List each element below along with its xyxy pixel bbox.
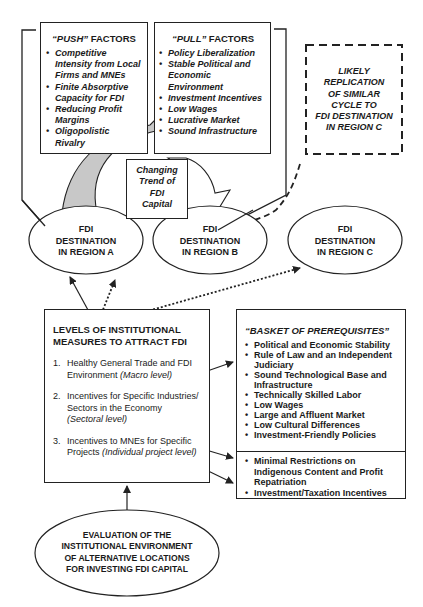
levels-title: LEVELS OF INSTITUTIONAL MEASURES TO ATTR… (53, 324, 203, 348)
pull-item: Policy Liberalization (159, 48, 267, 59)
basket-list: Political and Economic Stability Rule of… (245, 340, 401, 440)
pull-item: Low Wages (159, 104, 267, 115)
level-number: 1. (53, 358, 67, 381)
replication-line: REPLICATION (308, 77, 400, 88)
levels-title-line: LEVELS OF INSTITUTIONAL (53, 324, 203, 336)
basket-item: Political and Economic Stability (245, 340, 401, 350)
level-number: 2. (53, 391, 67, 426)
level-desc: Incentives for Specific Industries/ Sect… (67, 391, 199, 413)
level-item-sectoral: 2. Incentives for Specific Industries/ S… (53, 391, 203, 426)
basket-item: Technically Skilled Labor (245, 390, 401, 400)
level-item-project: 3. Incentives to MNEs for Specific Proje… (53, 436, 203, 459)
replication-text: LIKELY REPLICATION OF SIMILAR CYCLE TO F… (308, 66, 400, 134)
replication-line: IN REGION C (308, 122, 400, 133)
basket-item: Low Wages (245, 400, 401, 410)
push-factors-list: Competitive Intensity from Local Firms a… (46, 48, 142, 149)
evaluation-line: FOR INVESTING FDI CAPITAL (37, 564, 217, 575)
destination-line: IN REGION B (160, 247, 260, 259)
push-factors-box: “PUSH” FACTORS Competitive Intensity fro… (40, 22, 148, 154)
level-label: (Individual project level) (102, 447, 197, 457)
basket-extra-item: Minimal Restrictions on Indigenous Conte… (245, 456, 401, 488)
level-text: Healthy General Trade and FDI Environmen… (67, 358, 203, 381)
basket-item: Low Cultural Differences (245, 420, 401, 430)
level-label: (Sectoral level) (67, 414, 127, 424)
destination-line: IN REGION A (36, 247, 136, 259)
trend-line: FDI (127, 188, 187, 199)
destination-line: FDI (36, 224, 136, 236)
pull-factors-title: “PULL” FACTORS (159, 33, 267, 44)
basket-title: “BASKET OF PREREQUISITES” (245, 325, 401, 336)
replication-line: LIKELY (308, 66, 400, 77)
evaluation-line: INSTITUTIONAL ENVIRONMENT (37, 541, 217, 552)
pull-factors-list: Policy Liberalization Stable Political a… (159, 48, 267, 138)
destination-region-c: FDI DESTINATION IN REGION C (295, 224, 395, 259)
pull-item: Investment Incentives (159, 93, 267, 104)
level-label: (Macro level) (120, 370, 172, 380)
replication-line: FDI DESTINATION (308, 111, 400, 122)
pull-title-quoted: “PULL” (172, 33, 206, 44)
basket-box: “BASKET OF PREREQUISITES” Political and … (236, 309, 406, 499)
pull-factors-box: “PULL” FACTORS Policy Liberalization Sta… (154, 22, 271, 154)
push-title-rest: FACTORS (88, 33, 136, 44)
levels-title-line: MEASURES TO ATTRACT FDI (53, 336, 203, 348)
destination-line: IN REGION C (295, 247, 395, 259)
push-item: Finite Absorptive Capacity for FDI (46, 82, 142, 104)
basket-item: Investment-Friendly Policies (245, 430, 401, 440)
destination-region-a: FDI DESTINATION IN REGION A (36, 224, 136, 259)
basket-extra: Minimal Restrictions on Indigenous Conte… (237, 452, 405, 498)
level-text: Incentives for Specific Industries/ Sect… (67, 391, 203, 426)
basket-item: Rule of Law and an Independent Judiciary (245, 350, 401, 370)
changing-trend-box: Changing Trend of FDI Capital (126, 159, 188, 219)
push-factors-title: “PUSH” FACTORS (46, 33, 142, 44)
pull-title-rest: FACTORS (206, 33, 254, 44)
evaluation-line: EVALUATION OF THE (37, 530, 217, 541)
evaluation-line: OF ALTERNATIVE LOCATIONS (37, 553, 217, 564)
pull-item: Sound Infrastructure (159, 126, 267, 137)
basket-item: Sound Technological Base and Infrastruct… (245, 370, 401, 390)
pull-item: Stable Political and Economic Environmen… (159, 59, 267, 93)
destination-line: DESTINATION (295, 236, 395, 248)
level-text: Incentives to MNEs for Specific Projects… (67, 436, 203, 459)
trend-line: Capital (127, 199, 187, 210)
level-number: 3. (53, 436, 67, 459)
basket-extra-item: Investment/Taxation Incentives (245, 488, 401, 499)
push-item: Oligopolistic Rivalry (46, 126, 142, 148)
destination-line: DESTINATION (36, 236, 136, 248)
levels-box: LEVELS OF INSTITUTIONAL MEASURES TO ATTR… (44, 309, 210, 483)
push-item: Competitive Intensity from Local Firms a… (46, 48, 142, 82)
arrow-to-region-a (70, 277, 88, 310)
destination-line: FDI (160, 224, 260, 236)
basket-item: Large and Affluent Market (245, 410, 401, 420)
destination-region-b: FDI DESTINATION IN REGION B (160, 224, 260, 259)
evaluation-text: EVALUATION OF THE INSTITUTIONAL ENVIRONM… (37, 530, 217, 575)
trend-line: Changing (127, 165, 187, 176)
trend-line: Trend of (127, 176, 187, 187)
level-item-macro: 1. Healthy General Trade and FDI Environ… (53, 358, 203, 381)
destination-line: FDI (295, 224, 395, 236)
replication-line: OF SIMILAR (308, 89, 400, 100)
push-item: Reducing Profit Margins (46, 104, 142, 126)
push-title-quoted: “PUSH” (52, 33, 88, 44)
replication-line: CYCLE TO (308, 100, 400, 111)
basket-main: “BASKET OF PREREQUISITES” Political and … (237, 310, 405, 452)
destination-line: DESTINATION (160, 236, 260, 248)
basket-extra-list: Minimal Restrictions on Indigenous Conte… (245, 456, 401, 498)
pull-item: Lucrative Market (159, 115, 267, 126)
